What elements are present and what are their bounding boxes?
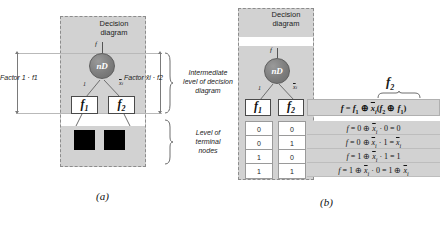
- panel-a-left-dim-line: [17, 54, 18, 113]
- figure-root: Decision diagram Factor 1 · f1 Factor x̄…: [0, 0, 447, 227]
- panel-a-caption: (a): [96, 190, 109, 202]
- panel-b-title: Decision diagram: [260, 10, 312, 28]
- panel-a-child-left-box: f1: [71, 96, 98, 114]
- panel-a-left-arrow-bottom: [15, 111, 19, 114]
- table-header-equation: f = f1 ⊕ xi(f2 ⊕ f1): [307, 103, 440, 115]
- panel-a-edge-left-label: 1: [83, 81, 86, 87]
- panel-a-child-right-label: f2: [118, 97, 126, 113]
- panel-a-right-arrow-top: [158, 51, 162, 54]
- panel-a-guide-top: [16, 53, 162, 54]
- table-f2-brace-label: f2: [386, 74, 394, 92]
- table-header-f2-label: f2: [287, 99, 295, 115]
- table-equation-3: f = 1 ⊕ xi · 0 = 1 ⊕ xi: [307, 166, 440, 177]
- panel-a-terminal-node-1: [104, 130, 125, 150]
- panel-b-edge-right-sub: i: [296, 85, 297, 90]
- table-f2-brace: [377, 91, 421, 99]
- panel-a-node-label: nD: [96, 61, 107, 71]
- panel-a-brace-intermediate: [164, 52, 174, 114]
- panel-a-left-arrow-top: [15, 51, 19, 54]
- panel-a-terminal-connectors: [60, 113, 146, 127]
- panel-a-right-arrow-bottom: [158, 111, 162, 114]
- table-equation-0: f = 0 ⊕ xi · 0 = 0: [307, 124, 440, 135]
- panel-a-decision-node: nD: [89, 53, 115, 79]
- panel-a-factor-left: Factor 1 · f1: [0, 73, 36, 82]
- panel-b-edge-right-label: xi: [293, 84, 297, 90]
- panel-b-node-label: nD: [271, 66, 282, 76]
- panel-a-note-intermediate: Intermediate level of decision diagram: [176, 68, 240, 95]
- panel-a-edge-right-sub: i: [122, 81, 123, 86]
- panel-b-decision-node: nD: [264, 58, 290, 84]
- table-cell-f1-3: 1: [245, 163, 273, 179]
- panel-a-title: Decision diagram: [86, 19, 142, 37]
- table-header-f1-box: f1: [245, 99, 271, 116]
- panel-a-terminal-node-0: [74, 130, 95, 150]
- table-header-f1-label: f1: [254, 99, 262, 115]
- panel-a-incoming-edge: [102, 42, 103, 53]
- panel-a-brace-terminal: [164, 119, 174, 165]
- panel-b-caption: (b): [320, 196, 333, 208]
- panel-b-edge-f-label: f: [270, 46, 272, 54]
- panel-a-right-dim-line: [160, 54, 161, 113]
- table-header-f2-box: f2: [278, 99, 304, 116]
- panel-a-child-right-box: f2: [108, 96, 135, 114]
- table-cell-f2-3: 1: [278, 163, 306, 179]
- panel-b-level-separator: [239, 37, 313, 46]
- table-equation-2: f = 1 ⊕ xi · 1 = 1: [307, 152, 440, 163]
- panel-a-edge-f-label: f: [95, 40, 97, 48]
- table-equation-1: f = 0 ⊕ xi · 1 = xi: [307, 138, 440, 149]
- panel-b-edge-left-label: 1: [258, 85, 261, 91]
- panel-a-edge-right-label: xi: [119, 80, 123, 86]
- panel-a-note-terminal: Level of terminal nodes: [176, 128, 240, 155]
- panel-a-child-left-label: f1: [81, 97, 89, 113]
- panel-b-incoming-edge: [277, 48, 278, 58]
